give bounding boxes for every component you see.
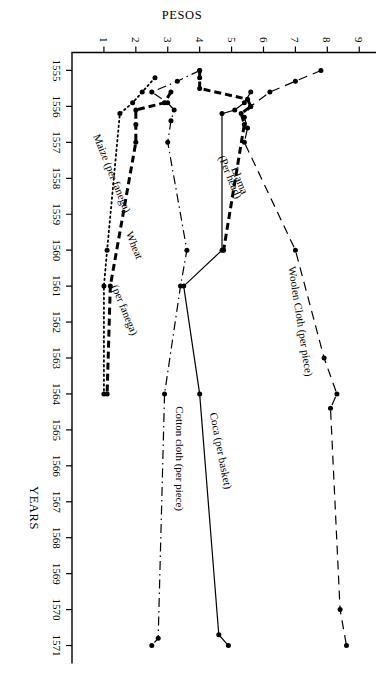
- series-label-2: Cotton cloth (per piece): [173, 406, 186, 511]
- data-point: [248, 89, 253, 94]
- data-point: [197, 75, 202, 80]
- data-point: [267, 89, 272, 94]
- series-label-5: Wheat: [124, 229, 146, 260]
- x-tick-label: 1561: [51, 275, 63, 297]
- data-point: [149, 643, 154, 648]
- data-point: [338, 607, 343, 612]
- y-tick-label: 3: [162, 37, 174, 43]
- data-point: [152, 75, 157, 80]
- series-line-2: [152, 70, 200, 645]
- y-tick-label: 1: [98, 37, 110, 43]
- x-tick-label: 1559: [51, 203, 63, 226]
- data-point: [318, 67, 323, 72]
- data-point: [293, 247, 298, 252]
- figure-page: 1555155615571558155915601561156215631564…: [0, 0, 390, 681]
- series-inline-labels: Woolen Cloth (per piece)Coca (per basket…: [90, 132, 315, 511]
- x-tick-label: 1569: [51, 562, 63, 585]
- data-point: [162, 391, 167, 396]
- y-axis-ticks: [104, 46, 359, 52]
- y-tick-label: 5: [226, 37, 238, 43]
- axis-lines: [72, 52, 376, 663]
- data-point: [133, 107, 138, 112]
- x-tick-label: 1571: [51, 634, 63, 656]
- y-tick-label: 4: [194, 37, 206, 43]
- x-tick-label: 1560: [51, 239, 63, 262]
- x-tick-label: 1564: [51, 382, 63, 405]
- data-point: [184, 247, 189, 252]
- x-tick-label: 1563: [51, 347, 63, 370]
- y-tick-label: 8: [321, 37, 333, 43]
- data-point: [162, 100, 167, 105]
- x-tick-label: 1555: [51, 59, 63, 82]
- data-point: [344, 643, 349, 648]
- data-point: [149, 89, 154, 94]
- data-point: [133, 139, 138, 144]
- data-point: [168, 118, 173, 123]
- plot-area: 1555155615571558155915601561156215631564…: [0, 0, 390, 681]
- rotated-figure-stage: 1555155615571558155915601561156215631564…: [0, 0, 390, 681]
- x-tick-label: 1566: [51, 454, 63, 477]
- line-chart-svg: 1555155615571558155915601561156215631564…: [0, 0, 390, 681]
- x-tick-label: 1557: [51, 131, 63, 154]
- data-point: [101, 391, 106, 396]
- data-point: [328, 405, 333, 410]
- y-tick-label: 6: [257, 37, 269, 43]
- y-tick-label: 2: [130, 37, 142, 43]
- data-point: [220, 111, 225, 116]
- data-point: [197, 67, 202, 72]
- data-point: [334, 391, 339, 396]
- x-tick-label: 1558: [51, 167, 63, 190]
- data-point: [197, 85, 202, 90]
- x-axis-title: YEARS: [27, 486, 41, 530]
- y-axis-title: PESOS: [162, 7, 203, 21]
- x-tick-label: 1568: [51, 526, 63, 549]
- data-point: [156, 635, 161, 640]
- x-tick-label: 1570: [51, 598, 63, 621]
- series-label-0: Woolen Cloth (per piece): [285, 265, 315, 377]
- data-point: [322, 355, 327, 360]
- x-axis-tick-labels: 1555155615571558155915601561156215631564…: [51, 59, 63, 656]
- data-point: [105, 247, 110, 252]
- series-label-6: (per fanega): [109, 282, 141, 337]
- data-point: [133, 121, 138, 126]
- data-point: [197, 391, 202, 396]
- x-tick-label: 1565: [51, 418, 63, 441]
- data-point: [168, 89, 173, 94]
- y-tick-label: 9: [353, 37, 365, 43]
- data-point: [178, 283, 183, 288]
- data-point: [245, 96, 250, 101]
- data-point: [216, 632, 221, 637]
- y-tick-label: 7: [289, 37, 301, 43]
- x-tick-label: 1567: [51, 490, 63, 513]
- data-point: [175, 78, 180, 83]
- y-axis-tick-labels: 123456789: [98, 37, 365, 43]
- data-point: [239, 111, 244, 116]
- series-label-1: Coca (per basket): [207, 411, 235, 490]
- data-point: [165, 139, 170, 144]
- data-point: [293, 78, 298, 83]
- x-tick-label: 1562: [51, 311, 63, 333]
- x-tick-label: 1556: [51, 95, 63, 118]
- series-line-0: [244, 70, 346, 645]
- data-point: [232, 107, 237, 112]
- data-point: [101, 283, 106, 288]
- chart-axes: [72, 52, 376, 663]
- x-axis-ticks: [66, 70, 72, 645]
